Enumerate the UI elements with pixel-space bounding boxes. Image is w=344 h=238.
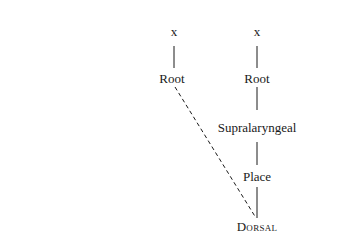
node-root-left: Root xyxy=(159,72,184,86)
edge-root-left-dorsal-dashed xyxy=(175,87,256,218)
node-x-left: x xyxy=(171,25,178,39)
node-supralaryngeal: Supralaryngeal xyxy=(218,121,297,135)
node-dorsal: Dorsal xyxy=(237,220,278,234)
node-place: Place xyxy=(243,170,271,184)
node-x-right: x xyxy=(254,25,261,39)
node-root-right: Root xyxy=(244,72,269,86)
